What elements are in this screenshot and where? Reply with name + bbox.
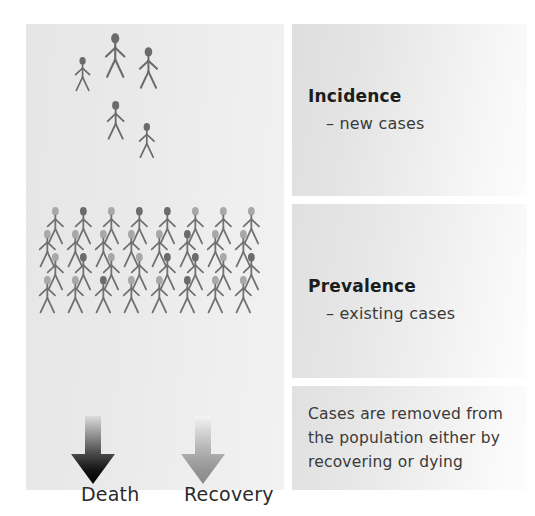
prevalence-subtext: – existing cases [326,304,455,323]
incidence-figure-5 [138,122,156,159]
incidence-figure-3 [138,46,159,90]
down-arrow-icon-death [68,416,118,486]
prevalence-figure-r4c2 [66,275,85,314]
prevalence-figure-r4c6 [178,275,197,314]
prevalence-heading: Prevalence [308,276,416,296]
prevalence-panel: Prevalence – existing cases [292,204,527,378]
down-arrow-icon-recovery [178,416,228,486]
removal-note-line-2: the population either by [308,426,518,450]
incidence-figure-4 [106,100,125,140]
prevalence-figure-r4c8 [234,275,253,314]
removal-note-line-1: Cases are removed from [308,402,518,426]
incidence-heading: Incidence [308,86,402,106]
removal-note-text: Cases are removed from the population ei… [308,402,518,474]
incidence-figure-2 [104,32,126,79]
incidence-figure-1 [74,56,91,92]
removal-note-line-3: recovering or dying [308,450,518,474]
prevalence-figure-r4c5 [150,275,169,314]
incidence-subtext: – new cases [326,114,425,133]
recovery-label: Recovery [184,483,274,505]
prevalence-figure-r4c1 [38,275,57,314]
prevalence-figure-r4c7 [206,275,225,314]
population-panel: Death Recovery [26,24,284,490]
death-label: Death [81,483,139,505]
prevalence-figure-r4c3 [94,275,113,314]
prevalence-figure-r4c4 [122,275,141,314]
incidence-panel: Incidence – new cases [292,24,527,196]
removal-note-panel: Cases are removed from the population ei… [292,386,527,490]
diagram-canvas: Death Recovery Incidence – new cases Pre… [0,0,535,516]
